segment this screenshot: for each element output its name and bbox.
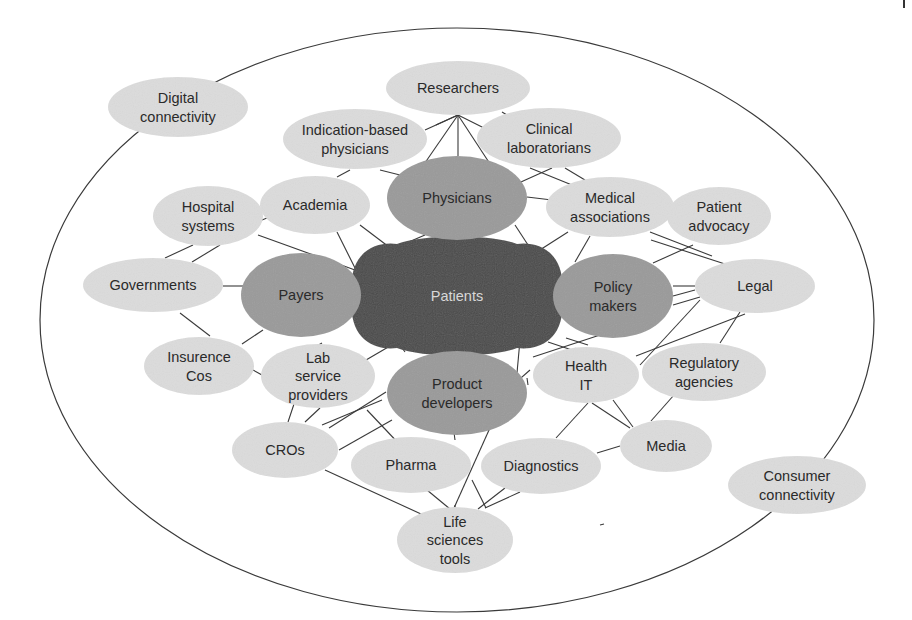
connection-line bbox=[600, 524, 604, 525]
regulatory-agencies-label: Regulatory bbox=[669, 355, 740, 371]
lab-service-providers-label: service bbox=[295, 368, 341, 384]
payers-label: Payers bbox=[278, 287, 323, 303]
insurence-cos-label: Insurence bbox=[167, 349, 231, 365]
indication-based-physicians-label: Indication-based bbox=[302, 122, 408, 138]
consumer-connectivity-label: Consumer bbox=[764, 468, 831, 484]
medical-associations-ellipse bbox=[546, 177, 674, 237]
connection-line bbox=[556, 403, 588, 438]
connection-line bbox=[288, 404, 294, 422]
digital-connectivity-label: Digital bbox=[158, 90, 198, 106]
connection-line bbox=[673, 290, 695, 296]
node-payers: Payers bbox=[241, 253, 361, 337]
indication-based-physicians-label: physicians bbox=[321, 141, 389, 157]
lab-service-providers-label: Lab bbox=[306, 350, 330, 366]
regulatory-agencies-label: agencies bbox=[675, 374, 733, 390]
clinical-laboratorians-label: laboratorians bbox=[507, 140, 591, 156]
medical-associations-label: associations bbox=[570, 209, 650, 225]
node-product-developers: Productdevelopers bbox=[387, 351, 527, 435]
physicians-label: Physicians bbox=[422, 190, 491, 206]
medical-associations-label: Medical bbox=[585, 190, 635, 206]
node-media: Media bbox=[620, 420, 712, 472]
connection-line bbox=[165, 245, 193, 258]
node-governments: Governments bbox=[83, 258, 223, 312]
connection-line bbox=[380, 170, 400, 175]
node-digital-connectivity: Digitalconnectivity bbox=[108, 77, 248, 137]
node-clinical-laboratorians: Clinicallaboratorians bbox=[477, 108, 621, 168]
node-academia: Academia bbox=[260, 176, 370, 234]
patient-advocacy-ellipse bbox=[667, 187, 771, 245]
patients-hub: Patients bbox=[351, 237, 562, 356]
product-developers-ellipse bbox=[387, 351, 527, 435]
health-it-label: Health bbox=[565, 358, 607, 374]
regulatory-agencies-ellipse bbox=[642, 343, 766, 401]
node-indication-based-physicians: Indication-basedphysicians bbox=[283, 109, 427, 169]
node-cros: CROs bbox=[232, 422, 338, 478]
governments-label: Governments bbox=[109, 277, 196, 293]
node-life-sciences-tools: Lifesciencestools bbox=[397, 507, 513, 573]
connection-line bbox=[565, 168, 585, 180]
researchers-label: Researchers bbox=[417, 80, 499, 96]
connection-line bbox=[337, 170, 350, 177]
product-developers-label: developers bbox=[422, 395, 493, 411]
digital-connectivity-label: connectivity bbox=[140, 109, 217, 125]
insurence-cos-ellipse bbox=[144, 337, 254, 395]
connection-line bbox=[253, 370, 262, 375]
connection-line bbox=[242, 330, 263, 344]
digital-connectivity-ellipse bbox=[108, 77, 248, 137]
patients-label: Patients bbox=[431, 288, 483, 304]
lab-service-providers-label: providers bbox=[288, 387, 348, 403]
life-sciences-tools-label: Life bbox=[443, 514, 466, 530]
connection-line bbox=[597, 446, 620, 453]
clinical-laboratorians-ellipse bbox=[477, 108, 621, 168]
connection-line bbox=[180, 313, 210, 336]
hospital-systems-ellipse bbox=[153, 186, 263, 246]
connection-line bbox=[530, 168, 572, 185]
connection-line bbox=[192, 245, 220, 262]
connection-line bbox=[337, 232, 355, 268]
connection-line bbox=[651, 395, 674, 421]
cros-label: CROs bbox=[265, 442, 304, 458]
node-consumer-connectivity: Consumerconnectivity bbox=[728, 456, 866, 514]
connection-line bbox=[305, 408, 320, 422]
connection-line bbox=[427, 490, 450, 509]
indication-based-physicians-ellipse bbox=[283, 109, 427, 169]
patient-advocacy-label: advocacy bbox=[688, 218, 750, 234]
health-it-ellipse bbox=[533, 347, 639, 403]
node-patients: Patients bbox=[351, 237, 562, 356]
stakeholder-diagram: ResearchersDigitalconnectivityIndication… bbox=[0, 0, 912, 620]
hospital-systems-label: Hospital bbox=[182, 199, 234, 215]
node-pharma: Pharma bbox=[351, 437, 471, 493]
hospital-systems-label: systems bbox=[181, 218, 234, 234]
diagnostics-label: Diagnostics bbox=[504, 458, 579, 474]
connection-line bbox=[566, 338, 588, 345]
node-insurence-cos: InsurenceCos bbox=[144, 337, 254, 395]
insurence-cos-label: Cos bbox=[186, 368, 212, 384]
patient-advocacy-label: Patient bbox=[696, 199, 741, 215]
node-hospital-systems: Hospitalsystems bbox=[153, 186, 263, 246]
product-developers-label: Product bbox=[432, 376, 482, 392]
academia-label: Academia bbox=[283, 197, 348, 213]
node-patient-advocacy: Patientadvocacy bbox=[667, 187, 771, 245]
node-diagnostics: Diagnostics bbox=[481, 438, 601, 494]
policy-makers-label: Policy bbox=[594, 279, 633, 295]
consumer-connectivity-ellipse bbox=[728, 456, 866, 514]
life-sciences-tools-label: sciences bbox=[427, 532, 483, 548]
node-health-it: HealthIT bbox=[533, 347, 639, 403]
policy-makers-ellipse bbox=[553, 254, 673, 338]
connection-line bbox=[478, 488, 505, 509]
clinical-laboratorians-label: Clinical bbox=[526, 121, 573, 137]
connection-line bbox=[527, 378, 528, 385]
life-sciences-tools-label: tools bbox=[440, 551, 471, 567]
node-regulatory-agencies: Regulatoryagencies bbox=[642, 343, 766, 401]
node-researchers: Researchers bbox=[386, 61, 530, 115]
node-policy-makers: Policymakers bbox=[553, 254, 673, 338]
media-label: Media bbox=[646, 438, 686, 454]
policy-makers-label: makers bbox=[589, 298, 637, 314]
node-physicians: Physicians bbox=[387, 156, 527, 240]
legal-label: Legal bbox=[737, 278, 772, 294]
node-medical-associations: Medicalassociations bbox=[546, 177, 674, 237]
pharma-label: Pharma bbox=[386, 457, 438, 473]
consumer-connectivity-label: connectivity bbox=[759, 487, 836, 503]
node-lab-service-providers: Labserviceproviders bbox=[261, 344, 375, 408]
health-it-label: IT bbox=[580, 377, 593, 393]
